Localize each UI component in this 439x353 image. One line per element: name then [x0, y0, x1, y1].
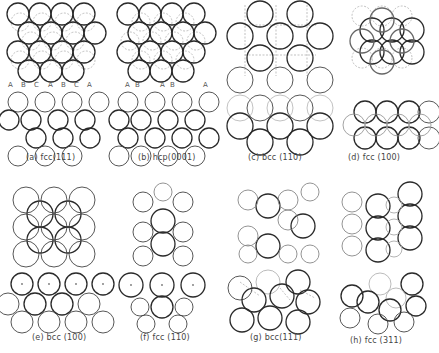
hcp0001-side-view [110, 94, 220, 154]
panel-h-fcc311: (h) fcc (311) [330, 176, 439, 353]
caption-c: (c) bcc (110) [248, 153, 302, 162]
fcc100-side-view [330, 96, 439, 156]
hcp0001-top-view [110, 0, 220, 80]
stacking-labels-abc: A B C A B C A [8, 81, 108, 91]
fcc311-top-view [330, 176, 439, 266]
stack-label: A [160, 81, 165, 89]
panel-e-bcc100: (e) bcc (100) [0, 176, 110, 353]
stack-label: C [74, 81, 79, 89]
bcc111-side-view [220, 268, 330, 328]
stack-label: B [61, 81, 66, 89]
fcc311-side-view [330, 272, 439, 332]
caption-g: (g) bcc(111) [250, 333, 302, 342]
caption-f: (f) fcc (110) [140, 333, 190, 342]
bcc100-top-view [0, 176, 110, 266]
panel-g-bcc111: (g) bcc(111) [220, 176, 330, 353]
stacking-labels-ab: A B A B A [125, 81, 220, 91]
panel-c-bcc110: (c) bcc (110) [220, 0, 330, 176]
stack-label: A [48, 81, 53, 89]
fcc111-side-view [0, 94, 110, 154]
panel-a-fcc111: A B C A B C A (a) fcc(111) [0, 0, 110, 176]
caption-e: (e) bcc (100) [32, 333, 86, 342]
stack-label: A [8, 81, 13, 89]
stack-label: B [135, 81, 140, 89]
stack-label: A [87, 81, 92, 89]
caption-b: (b) hcp(0001) [138, 153, 196, 162]
panel-f-fcc110: (f) fcc (110) [110, 176, 220, 353]
panel-b-hcp0001: A B A B A (b) hcp(0001) [110, 0, 220, 176]
bcc100-side-view [0, 270, 110, 330]
caption-d: (d) fcc (100) [348, 153, 400, 162]
bcc110-side-view [220, 96, 330, 156]
fcc110-top-view [110, 176, 220, 266]
panel-d-fcc100: (d) fcc (100) [330, 0, 439, 176]
bcc110-top-view [220, 0, 330, 80]
stack-label: A [125, 81, 130, 89]
stack-label: B [21, 81, 26, 89]
caption-a: (a) fcc(111) [26, 153, 75, 162]
fcc100-top-view [330, 0, 439, 80]
stack-label: A [203, 81, 208, 89]
fcc110-side-view [110, 270, 220, 330]
stack-label: C [34, 81, 39, 89]
stack-label: B [170, 81, 175, 89]
caption-h: (h) fcc (311) [350, 336, 402, 345]
fcc111-top-view [0, 0, 110, 80]
bcc111-top-view [220, 176, 330, 266]
